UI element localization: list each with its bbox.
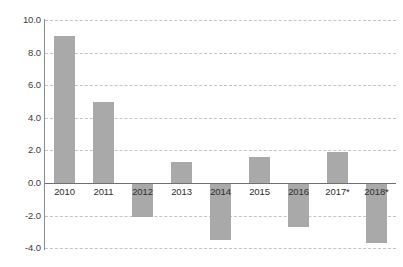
x-axis-tick-label: 2011 bbox=[84, 186, 123, 197]
x-axis-tick-label: 2017* bbox=[318, 186, 357, 197]
x-axis-tick-label: 2016 bbox=[279, 186, 318, 197]
bar-chart: 10.08.06.04.02.00.0-2.0-4.0 201020112012… bbox=[0, 0, 403, 267]
x-axis-tick-label: 2010 bbox=[45, 186, 84, 197]
x-axis-tick-label: 2013 bbox=[162, 186, 201, 197]
x-axis-tick-labels: 20102011201220132014201520162017*2018* bbox=[0, 0, 403, 267]
x-axis-tick-label: 2014 bbox=[201, 186, 240, 197]
x-axis-tick-label: 2012 bbox=[123, 186, 162, 197]
x-axis-tick-label: 2015 bbox=[240, 186, 279, 197]
x-axis-tick-label: 2018* bbox=[357, 186, 396, 197]
